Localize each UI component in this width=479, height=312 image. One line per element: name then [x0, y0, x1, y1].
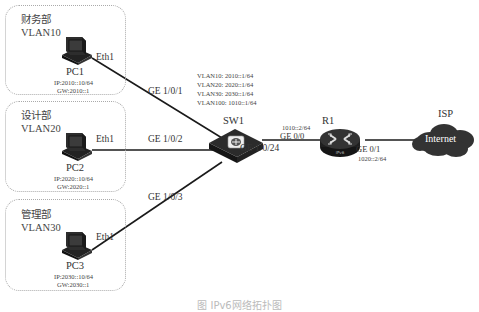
isp-name: ISP: [438, 108, 453, 119]
sw1-port-ge1-0-2: GE 1/0/2: [148, 134, 183, 144]
pc2-port-label: Eth1: [96, 134, 114, 144]
r1-port-ge0-0: GE 0/0: [280, 131, 304, 141]
sw1-vlan-interfaces: VLAN10: 2010::1/64 VLAN20: 2020::1/64 VL…: [197, 71, 256, 107]
pc3-computer-icon[interactable]: [58, 228, 94, 260]
sw1-port-ge1-0-1: GE 1/0/1: [148, 86, 183, 96]
sw1-port-ge1-0-24: GE 1/0/24: [240, 143, 279, 153]
pc3-port-label: Eth1: [96, 232, 114, 242]
pc3-name: PC3: [66, 260, 84, 271]
pc1-gateway: GW:2010::1: [57, 86, 89, 95]
pc1-port-label: Eth1: [96, 52, 114, 62]
pc1-computer-icon[interactable]: [58, 33, 94, 65]
r1-ge0-1-ip: 1020::2/64: [358, 154, 386, 163]
department-name: 设计部 VLAN20: [21, 109, 61, 135]
sw1-name: SW1: [223, 115, 244, 126]
svg-text:IPv6: IPv6: [336, 150, 345, 155]
pc1-name: PC1: [66, 66, 84, 77]
figure-caption: 图 IPv6网络拓扑图: [0, 297, 479, 312]
department-name: 管理部 VLAN30: [21, 208, 61, 234]
pc2-gateway: GW:2020::1: [57, 182, 89, 191]
r1-port-ge0-1: GE 0/1: [356, 144, 380, 154]
router-icon[interactable]: IPv6: [318, 127, 362, 159]
r1-name: R1: [322, 115, 334, 126]
pc2-name: PC2: [66, 162, 84, 173]
internet-label: Internet: [425, 133, 456, 144]
pc3-gateway: GW:2030::1: [57, 280, 89, 289]
pc2-computer-icon[interactable]: [58, 129, 94, 161]
department-name: 财务部 VLAN10: [21, 13, 61, 39]
sw1-port-ge1-0-3: GE 1/0/3: [148, 192, 183, 202]
